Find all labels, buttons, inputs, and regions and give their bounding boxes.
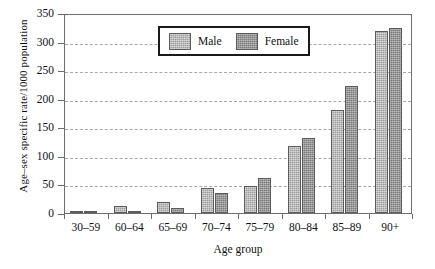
y-axis-tick — [58, 185, 64, 186]
y-axis-label: 100 — [14, 151, 54, 162]
y-axis-label: 150 — [14, 122, 54, 133]
x-axis-tick — [64, 214, 65, 219]
y-axis-label: 350 — [14, 8, 54, 19]
y-axis-label: 250 — [14, 65, 54, 76]
y-axis-tick — [58, 43, 64, 44]
legend-swatch-male-icon — [169, 33, 191, 50]
x-axis-tick — [325, 214, 326, 219]
bar-group — [109, 14, 153, 213]
bar-female-60_64 — [128, 211, 141, 213]
x-axis-tick — [282, 214, 283, 219]
bar-group — [370, 14, 414, 213]
bar-female-75_79 — [258, 178, 271, 213]
y-axis-label: 200 — [14, 94, 54, 105]
y-axis-tick — [58, 157, 64, 158]
bar-female-85_89 — [345, 86, 358, 213]
bar-group — [326, 14, 370, 213]
bar-female-70_74 — [215, 193, 228, 213]
x-axis-tick — [195, 214, 196, 219]
legend-label-male: Male — [198, 35, 222, 47]
bar-male-80_84 — [288, 146, 301, 213]
x-axis-label: 90+ — [362, 221, 418, 233]
bar-male-30_59 — [70, 211, 83, 213]
y-axis-tick — [58, 71, 64, 72]
legend-swatch-female-icon — [236, 33, 258, 50]
y-axis-label: 0 — [14, 208, 54, 219]
bar-female-30_59 — [84, 211, 97, 213]
x-axis-tick — [151, 214, 152, 219]
y-axis-label: 50 — [14, 179, 54, 190]
bar-male-85_89 — [331, 110, 344, 213]
bar-female-80_84 — [302, 138, 315, 213]
bar-chart: Age–sex specific rate/1000 population 05… — [0, 0, 435, 269]
x-axis-tick — [108, 214, 109, 219]
bar-male-70_74 — [201, 188, 214, 213]
y-axis-tick — [58, 128, 64, 129]
bar-male-60_64 — [114, 206, 127, 213]
chart-legend: Male Female — [158, 26, 310, 56]
bar-male-65_69 — [157, 202, 170, 213]
x-axis-tick — [412, 214, 413, 219]
x-axis-tick — [369, 214, 370, 219]
y-axis-tick — [58, 14, 64, 15]
y-axis-label: 300 — [14, 37, 54, 48]
bar-male-90+ — [375, 31, 388, 213]
bar-female-65_69 — [171, 208, 184, 213]
x-axis-title: Age group — [64, 243, 412, 255]
x-axis-tick — [238, 214, 239, 219]
y-axis-tick — [58, 100, 64, 101]
legend-label-female: Female — [265, 35, 299, 47]
bar-female-90+ — [389, 28, 402, 213]
bar-group — [65, 14, 109, 213]
bar-male-75_79 — [244, 186, 257, 213]
legend-entry-female: Female — [236, 33, 299, 50]
legend-entry-male: Male — [169, 33, 222, 50]
